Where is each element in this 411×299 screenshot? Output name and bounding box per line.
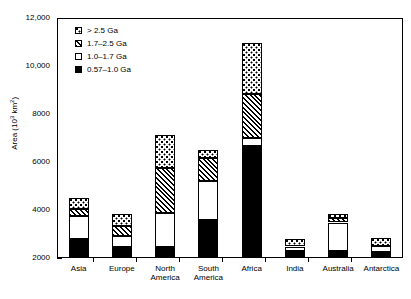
- bar-antarctica-segment-solid: [371, 252, 391, 258]
- bar-asia: [69, 198, 89, 258]
- bar-antarctica: [371, 238, 391, 258]
- bar-south-america-segment-solid: [198, 220, 218, 258]
- bar-north-america-segment-hatched: [155, 168, 175, 213]
- y-tick-label-10000: 10,000: [26, 62, 50, 70]
- y-tick-label-2000: 2000: [32, 254, 50, 262]
- bar-africa: [242, 43, 262, 258]
- bar-australia: [328, 214, 348, 258]
- bar-europe-segment-hatched: [112, 226, 132, 237]
- bar-asia-segment-hatched: [69, 209, 89, 216]
- bar-asia-segment-solid: [69, 239, 89, 258]
- bar-europe-segment-stippled: [112, 214, 132, 226]
- x-label-asia: Asia: [57, 264, 100, 273]
- y-tick-label-6000: 6000: [32, 158, 50, 166]
- bar-india-segment-white: [285, 247, 305, 251]
- bar-africa-segment-white: [242, 138, 262, 145]
- x-label-australia: Australia: [317, 264, 360, 273]
- x-label-india: India: [273, 264, 316, 273]
- bar-australia-segment-stippled: [328, 214, 348, 218]
- bar-antarctica-segment-white: [371, 246, 391, 252]
- x-tick-south-america: [222, 258, 223, 262]
- x-tick-asia: [93, 258, 94, 262]
- bar-asia-segment-white: [69, 216, 89, 239]
- bars-container: [57, 18, 403, 258]
- x-label-south-america: South America: [187, 264, 230, 282]
- x-tick-australia: [351, 258, 352, 262]
- x-axis-tick-labels: AsiaEuropeNorth AmericaSouth AmericaAfri…: [57, 264, 403, 298]
- bar-india-segment-solid: [285, 251, 305, 258]
- x-tick-north-america: [179, 258, 180, 262]
- bar-india-segment-stippled: [285, 239, 305, 247]
- bar-north-america-segment-stippled: [155, 135, 175, 168]
- y-tick-2000: [57, 258, 62, 259]
- x-tick-india: [308, 258, 309, 262]
- bar-europe-segment-white: [112, 236, 132, 247]
- x-label-africa: Africa: [230, 264, 273, 273]
- bar-south-america-segment-stippled: [198, 150, 218, 158]
- bar-south-america: [198, 150, 218, 258]
- bar-north-america-segment-white: [155, 213, 175, 247]
- bar-africa-segment-stippled: [242, 43, 262, 94]
- bar-antarctica-segment-stippled: [371, 238, 391, 246]
- y-tick-label-4000: 4000: [32, 206, 50, 214]
- x-label-antarctica: Antarctica: [360, 264, 403, 273]
- x-label-north-america: North America: [144, 264, 187, 282]
- bar-south-america-segment-hatched: [198, 158, 218, 181]
- y-tick-label-12000: 12,000: [26, 14, 50, 22]
- y-axis-title: Area (103 km2): [9, 75, 20, 171]
- bar-north-america: [155, 135, 175, 258]
- x-tick-africa: [265, 258, 266, 262]
- y-tick-label-8000: 8000: [32, 110, 50, 118]
- chart-figure: 12,000 10,000 8000 6000 4000 2000 Area (…: [0, 0, 411, 299]
- bar-south-america-segment-white: [198, 181, 218, 220]
- bar-africa-segment-hatched: [242, 94, 262, 138]
- bar-australia-segment-hatched: [328, 218, 348, 223]
- bar-europe: [112, 214, 132, 258]
- bar-australia-segment-solid: [328, 251, 348, 258]
- x-label-europe: Europe: [100, 264, 143, 273]
- bar-north-america-segment-solid: [155, 247, 175, 258]
- x-tick-europe: [136, 258, 137, 262]
- bar-asia-segment-stippled: [69, 198, 89, 209]
- bar-india: [285, 239, 305, 258]
- bar-europe-segment-solid: [112, 247, 132, 258]
- bar-africa-segment-solid: [242, 146, 262, 258]
- bar-australia-segment-white: [328, 223, 348, 251]
